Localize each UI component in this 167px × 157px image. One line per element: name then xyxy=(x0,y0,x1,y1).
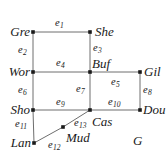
node-label-sho: Sho xyxy=(1,103,30,116)
edge-label-e4: e4 xyxy=(56,58,64,69)
node-label-gre: Gre xyxy=(3,25,30,38)
edge-label-e12: e12 xyxy=(48,140,60,151)
edge-label-base-e11: e xyxy=(15,118,20,129)
graph-name-label: G xyxy=(133,134,142,147)
edge-label-subscript-e6: 6 xyxy=(23,88,27,97)
edge-label-e6: e6 xyxy=(18,85,26,96)
edge-label-subscript-e11: 11 xyxy=(20,122,27,131)
edge-label-e3: e3 xyxy=(93,43,101,54)
node-label-wor: Wor xyxy=(0,65,30,78)
edge-label-base-e3: e xyxy=(93,42,98,53)
node-dot-mud[interactable] xyxy=(61,125,65,129)
edge-label-base-e1: e xyxy=(55,17,60,28)
edge-label-base-e2: e xyxy=(18,44,23,55)
node-label-mud: Mud xyxy=(66,131,98,144)
node-dot-wor[interactable] xyxy=(31,70,35,74)
node-dot-gil[interactable] xyxy=(138,70,142,74)
edge-label-e7: e7 xyxy=(76,84,84,95)
edge-label-e10: e10 xyxy=(108,97,120,108)
node-label-dou: Dou xyxy=(143,103,167,116)
node-dot-dou[interactable] xyxy=(138,108,142,112)
edge-label-subscript-e4: 4 xyxy=(61,61,65,70)
edge-label-subscript-e2: 2 xyxy=(23,48,27,57)
edge-label-base-e13: e xyxy=(74,117,79,128)
node-dot-gre[interactable] xyxy=(31,30,35,34)
edge-label-base-e6: e xyxy=(18,84,23,95)
edge-label-subscript-e8: 8 xyxy=(148,88,152,97)
edge-label-base-e7: e xyxy=(76,83,81,94)
node-dot-group xyxy=(31,30,142,145)
edge-label-e8: e8 xyxy=(143,85,151,96)
node-dot-sho[interactable] xyxy=(31,108,35,112)
edge-line-e11 xyxy=(33,110,34,143)
edge-label-subscript-e9: 9 xyxy=(61,100,65,109)
node-label-cas: Cas xyxy=(92,115,119,128)
edge-label-e1: e1 xyxy=(55,18,63,29)
edge-label-base-e10: e xyxy=(108,96,113,107)
edge-label-subscript-e7: 7 xyxy=(81,87,85,96)
node-dot-cas[interactable] xyxy=(88,108,92,112)
graph-figure: GreSheWorBufGilShoCasDouMudLan e1e2e3e4e… xyxy=(0,0,167,157)
edge-label-base-e9: e xyxy=(56,96,61,107)
edge-label-subscript-e1: 1 xyxy=(60,21,64,30)
edge-label-subscript-e5: 5 xyxy=(116,80,120,89)
edge-label-e5: e5 xyxy=(111,77,119,88)
node-dot-she[interactable] xyxy=(88,30,92,34)
edge-label-base-e4: e xyxy=(56,57,61,68)
edge-label-e2: e2 xyxy=(18,45,26,56)
node-label-buf: Buf xyxy=(92,57,120,70)
edge-label-subscript-e13: 13 xyxy=(79,121,87,130)
edge-label-base-e12: e xyxy=(48,139,53,150)
node-label-lan: Lan xyxy=(1,136,31,149)
node-dot-lan[interactable] xyxy=(32,141,36,145)
edge-label-e13: e13 xyxy=(74,118,86,129)
edge-label-subscript-e10: 10 xyxy=(113,100,121,109)
node-label-gil: Gil xyxy=(144,65,166,78)
edge-label-subscript-e3: 3 xyxy=(98,46,102,55)
edge-label-subscript-e12: 12 xyxy=(53,143,61,152)
edge-label-base-e8: e xyxy=(143,84,148,95)
edge-label-e11: e11 xyxy=(15,119,27,130)
edge-label-base-e5: e xyxy=(111,76,116,87)
edge-label-e9: e9 xyxy=(56,97,64,108)
edge-line-group xyxy=(33,32,140,143)
node-label-she: She xyxy=(95,25,125,38)
